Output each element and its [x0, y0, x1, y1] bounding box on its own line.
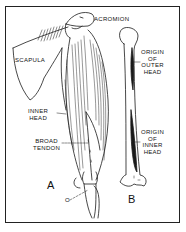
panel-label-b: B	[128, 196, 135, 203]
label-scapula: SCAPULA	[15, 57, 45, 64]
label-insertion: O	[65, 197, 70, 204]
origin-outer-head-shade	[131, 48, 134, 90]
label-broad-tendon: BROAD TENDON	[33, 138, 60, 151]
triceps-outer-edge	[66, 38, 82, 180]
panel-label-a: A	[47, 182, 54, 189]
acromion-shape	[66, 12, 94, 26]
scapula-spine-hatching	[38, 26, 63, 41]
label-origin-inner-head: ORIGIN OF INNER HEAD	[141, 129, 164, 155]
label-origin-outer-head: ORIGIN OF OUTER HEAD	[141, 49, 164, 75]
label-acromion: ACROMION	[94, 16, 129, 23]
label-inner-head: INNER HEAD	[28, 108, 48, 121]
scapula-outline	[13, 27, 68, 100]
broad-tendon	[86, 112, 100, 180]
forearm-bones	[84, 184, 99, 218]
origin-inner-head-shade	[131, 110, 137, 172]
